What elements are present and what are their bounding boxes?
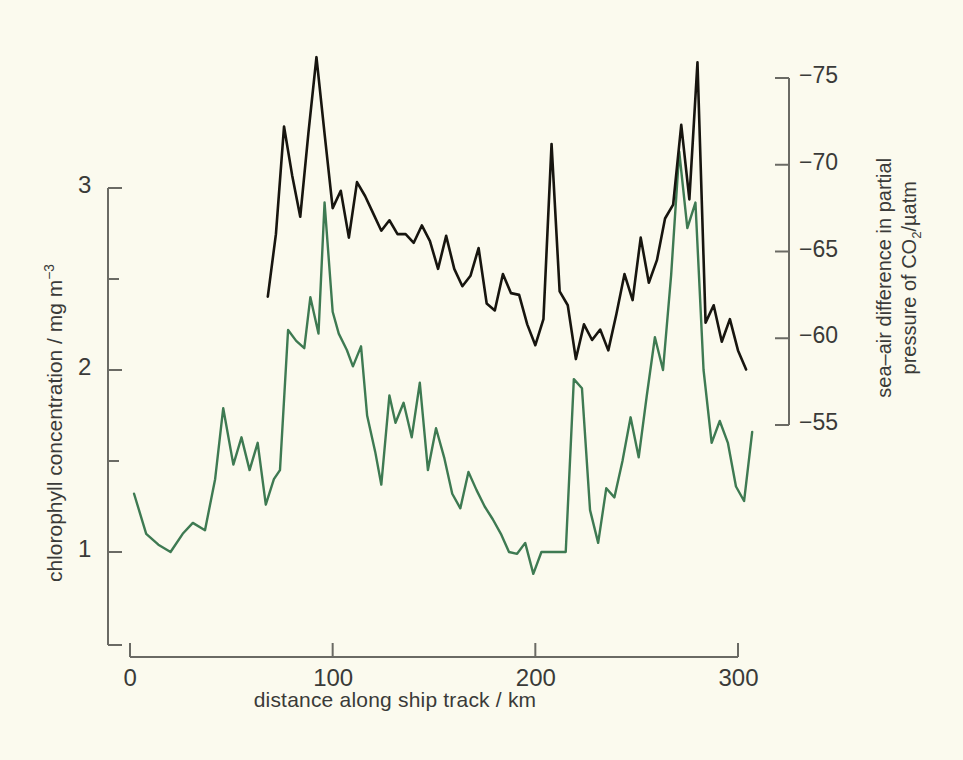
y-axis-right-tick-label: −75 bbox=[799, 62, 838, 89]
y-axis-right-tick-label: −55 bbox=[799, 409, 838, 436]
y-axis-left-title-exponent: −3 bbox=[41, 264, 57, 280]
data-series-group bbox=[134, 57, 752, 574]
chart-plot-area bbox=[0, 0, 963, 760]
chart-figure: distance along ship track / km chlorophy… bbox=[0, 0, 963, 760]
y-axis-right-title-line3: /µatm bbox=[898, 181, 920, 231]
x-axis-tick-label: 100 bbox=[313, 664, 353, 692]
chlorophyll-series-line bbox=[134, 152, 752, 574]
x-axis-title: distance along ship track / km bbox=[0, 688, 790, 712]
y-axis-left-tick-label: 2 bbox=[78, 353, 91, 381]
x-axis-tick-label: 0 bbox=[124, 664, 137, 692]
x-axis-tick-label: 300 bbox=[719, 664, 759, 692]
y-axis-left-title-text: chlorophyll concentration / mg m bbox=[43, 280, 66, 582]
y-axis-left-title: chlorophyll concentration / mg m−3 bbox=[41, 193, 67, 653]
y-axis-left-tick-label: 1 bbox=[78, 535, 91, 563]
y-axis-right-tick-label: −60 bbox=[799, 322, 838, 349]
y-axis-right-tick-label: −65 bbox=[799, 236, 838, 263]
y-axis-right-title-subscript: 2 bbox=[909, 231, 924, 238]
y-axis-left-tick-label: 3 bbox=[78, 171, 91, 199]
y-axis-right-title-line2: pressure of CO bbox=[898, 239, 920, 375]
y-axis-right-title: sea–air difference in partialpressure of… bbox=[872, 48, 926, 508]
y-axis-right-tick-label: −70 bbox=[799, 149, 838, 176]
y-axis-right-title-line1: sea–air difference in partial bbox=[873, 158, 895, 398]
x-axis-tick-label: 200 bbox=[516, 664, 556, 692]
